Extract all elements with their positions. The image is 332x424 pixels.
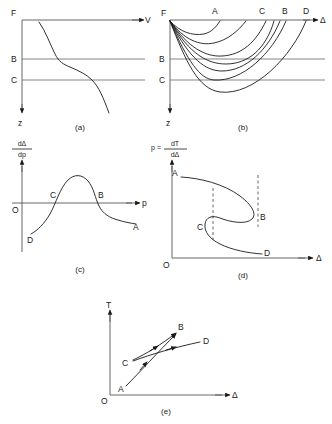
panel-b: F A C B D B C Δ z (b) [159,6,326,132]
panel-e-label-d: D [203,336,209,346]
panel-d-caption: (d) [238,271,248,280]
panel-c-label-c: C [50,190,56,200]
panel-b-ray-5 [170,21,280,71]
panel-a-label-f: F [11,8,16,18]
panel-b-label-d: D [303,6,309,16]
panel-e-label-a: A [118,384,124,394]
figure-panel-set: F B C V z (a) F A C B D B C Δ z (b) [0,0,332,424]
panel-d-axis-prefix: p = [151,144,161,152]
panel-a-velocity-curve [39,22,109,113]
panel-b-ray-6 [170,21,286,80]
panel-e-origin-label: O [101,396,108,406]
panel-e-branch-cd [133,342,200,361]
panel-a: F B C V z (a) [11,8,151,132]
panel-d-origin-label: O [163,260,170,270]
panel-d: p = dT dΔ A B C D O Δ (d) [151,140,322,280]
panel-d-label-a: A [172,168,178,178]
panel-e: T A B C D O Δ (e) [101,300,238,416]
panel-b-label-b: B [282,6,288,16]
panel-b-ray-7 [170,21,306,92]
panel-e-arrow-cb [150,346,158,351]
panel-b-label-f: F [161,8,166,18]
panel-c-caption: (c) [75,265,85,274]
panel-c-label-b: B [98,190,104,200]
panel-e-axis-label-t: T [106,300,111,310]
panel-d-axis-label-delta: Δ [316,253,322,263]
panel-c-curve [31,176,136,234]
panel-d-label-d: D [264,248,270,258]
panel-b-label-c: C [259,6,265,16]
panel-d-axis-numerator: dT [171,140,180,147]
panel-c-label-a: A [133,222,139,232]
panel-b-axis-label-z: z [166,118,170,128]
panel-a-label-c: C [11,75,17,85]
panel-a-axis-label-v: V [145,15,151,25]
panel-a-axis-label-z: z [18,118,22,128]
panel-e-label-c: C [122,358,128,368]
panel-c: dΔ dp O D C B A p (c) [12,140,147,274]
panel-e-label-b: B [178,322,184,332]
panel-d-label-c: C [197,222,203,232]
panel-d-label-b: B [260,212,266,222]
panel-e-arrow-ab [140,362,147,370]
panel-b-caption: (b) [238,123,248,132]
panel-d-curve [181,177,262,254]
panel-c-axis-numerator: dΔ [18,140,27,147]
panel-e-arrow-cd [166,347,176,350]
panel-b-label-a: A [212,6,218,16]
panel-c-origin-label: O [12,205,19,215]
panel-b-axis-label-delta: Δ [320,15,326,25]
panel-a-label-b: B [11,54,17,64]
panel-c-axis-label-p: p [142,198,147,208]
panel-a-caption: (a) [75,123,85,132]
panel-c-label-d: D [27,235,33,245]
panel-b-level-label-b: B [159,54,165,64]
panel-c-axis-denominator: dp [18,151,26,159]
panel-b-level-label-c: C [159,75,165,85]
panel-d-axis-denominator: dΔ [171,151,180,158]
panel-e-axis-label-delta: Δ [232,390,238,400]
panel-e-caption: (e) [161,407,171,416]
